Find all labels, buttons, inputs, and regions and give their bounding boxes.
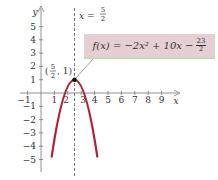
function-expression: f(x) = −2x² + 10x − — [93, 40, 194, 51]
svg-text:−2: −2 — [23, 115, 36, 125]
svg-text:6: 6 — [119, 95, 125, 105]
svg-text:2: 2 — [51, 72, 55, 80]
x-axis — [20, 90, 180, 96]
svg-text:5: 5 — [101, 6, 105, 14]
svg-text:−1: −1 — [23, 101, 36, 111]
svg-text:7: 7 — [132, 95, 138, 105]
svg-text:8: 8 — [145, 95, 151, 105]
axis-of-symmetry-label: x = 5 2 — [79, 6, 106, 23]
svg-text:2: 2 — [101, 15, 105, 23]
svg-text:−3: −3 — [23, 128, 37, 138]
svg-text:4: 4 — [92, 95, 98, 105]
svg-text:3: 3 — [30, 48, 36, 58]
vertex-label: ( 5 2 , 1) — [45, 63, 72, 80]
svg-text:4: 4 — [30, 35, 36, 45]
y-tick-labels: 5 4 3 2 1 −1 −2 −3 −4 −5 y — [23, 7, 39, 165]
svg-text:1: 1 — [52, 95, 58, 105]
svg-text:x =: x = — [79, 11, 94, 21]
function-label-box: f(x) = −2x² + 10x − 23 2 — [84, 34, 215, 59]
svg-text:, 1): , 1) — [57, 66, 72, 76]
chart-canvas: −1 1 2 3 4 5 6 7 8 9 x 5 4 3 2 1 −1 −2 −… — [0, 0, 218, 180]
vertex-point — [72, 78, 76, 82]
svg-text:5: 5 — [30, 22, 36, 32]
svg-text:2: 2 — [30, 61, 36, 71]
y-axis — [38, 6, 44, 172]
x-axis-label: x — [173, 96, 178, 106]
svg-text:−5: −5 — [23, 155, 37, 165]
x-tick-labels: −1 1 2 3 4 5 6 7 8 9 x — [17, 95, 178, 106]
svg-text:−4: −4 — [23, 141, 37, 151]
y-axis-label: y — [31, 7, 38, 17]
svg-text:9: 9 — [159, 95, 165, 105]
svg-text:(: ( — [45, 66, 49, 76]
function-fraction: 23 2 — [196, 38, 207, 53]
svg-text:5: 5 — [105, 95, 111, 105]
svg-text:5: 5 — [51, 63, 55, 71]
callout-pointer — [76, 59, 93, 78]
svg-text:1: 1 — [30, 75, 36, 85]
